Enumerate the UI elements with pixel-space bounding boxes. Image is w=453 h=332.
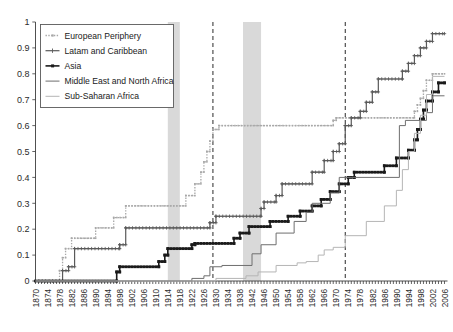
series-marker-asia [266, 225, 269, 228]
series-marker-asia [347, 182, 350, 185]
series-marker-european-periphery [332, 125, 334, 127]
series-marker-asia [404, 157, 407, 160]
series-marker-european-periphery [387, 117, 389, 119]
series-marker-latam-and-caribbean [301, 182, 304, 185]
series-marker-asia [341, 182, 344, 185]
series-marker-european-periphery [71, 237, 73, 239]
series-marker-asia [320, 204, 323, 207]
series-marker-european-periphery [141, 205, 143, 207]
series-marker-latam-and-caribbean [202, 226, 205, 229]
series-marker-asia [148, 265, 151, 268]
series-marker-asia [130, 265, 133, 268]
series-marker-european-periphery [194, 183, 196, 185]
series-marker-asia [199, 242, 202, 245]
series-marker-latam-and-caribbean [359, 116, 362, 119]
series-marker-asia [166, 247, 169, 250]
x-tick-label: 1922 [188, 289, 197, 308]
series-marker-latam-and-caribbean [155, 226, 158, 229]
series-line-asia [36, 83, 445, 281]
x-tick-label: 1950 [272, 289, 281, 308]
series-marker-european-periphery [206, 161, 208, 163]
series-marker-european-periphery [218, 125, 220, 127]
series-marker-european-periphery [332, 120, 334, 122]
series-marker-european-periphery [285, 125, 287, 127]
series-marker-asia [157, 260, 160, 263]
series-marker-latam-and-caribbean [189, 226, 192, 229]
series-marker-asia [374, 171, 377, 174]
series-marker-asia [190, 247, 193, 250]
series-marker-european-periphery [435, 73, 437, 75]
x-tick-label: 1954 [284, 289, 293, 308]
x-tick-label: 1910 [152, 289, 161, 308]
series-marker-asia [443, 81, 446, 84]
series-marker-latam-and-caribbean [161, 226, 164, 229]
series-marker-asia [440, 81, 443, 84]
series-marker-european-periphery [406, 117, 408, 119]
series-marker-asia [344, 182, 347, 185]
series-marker-european-periphery [188, 195, 190, 197]
figure-container: 00.10.20.30.40.50.60.70.80.91 1870187418… [0, 0, 453, 332]
series-marker-european-periphery [244, 125, 246, 127]
series-marker-asia [175, 247, 178, 250]
series-marker-european-periphery [426, 90, 428, 92]
chart-legend: European PeripheryLatam and CaribbeanAsi… [41, 25, 174, 108]
series-marker-asia [269, 220, 272, 223]
series-marker-european-periphery [282, 125, 284, 127]
series-marker-european-periphery [420, 104, 422, 106]
figure-caption-clipped [0, 321, 453, 332]
series-marker-european-periphery [234, 125, 236, 127]
series-marker-european-periphery [414, 111, 416, 113]
chart-canvas: 00.10.20.30.40.50.60.70.80.91 1870187418… [0, 0, 453, 332]
series-marker-european-periphery [438, 73, 440, 75]
series-marker-european-periphery [409, 117, 411, 119]
series-marker-asia [160, 260, 163, 263]
series-marker-asia [211, 242, 214, 245]
series-marker-european-periphery [403, 117, 405, 119]
series-marker-asia [127, 265, 130, 268]
series-marker-latam-and-caribbean [127, 226, 130, 229]
series-marker-latam-and-caribbean [134, 226, 137, 229]
x-tick-label: 1930 [212, 289, 221, 308]
series-marker-european-periphery [412, 117, 414, 119]
series-marker-latam-and-caribbean [431, 32, 434, 35]
series-marker-european-periphery [228, 125, 230, 127]
series-marker-asia [317, 204, 320, 207]
series-marker-european-periphery [257, 125, 259, 127]
x-tick-label: 1894 [104, 289, 113, 308]
series-marker-latam-and-caribbean [397, 77, 400, 80]
series-marker-european-periphery [423, 98, 425, 100]
series-marker-asia [395, 157, 398, 160]
series-marker-latam-and-caribbean [419, 46, 422, 49]
y-tick-label: 1 [24, 17, 29, 27]
series-marker-asia [368, 171, 371, 174]
series-marker-latam-and-caribbean [86, 247, 89, 250]
x-tick-label: 1942 [248, 289, 257, 308]
series-marker-latam-and-caribbean [284, 182, 287, 185]
x-tick-label: 1906 [140, 289, 149, 308]
series-marker-european-periphery [93, 237, 95, 239]
series-marker-european-periphery [289, 125, 291, 127]
series-marker-latam-and-caribbean [110, 247, 113, 250]
series-marker-european-periphery [374, 117, 376, 119]
series-marker-latam-and-caribbean [151, 226, 154, 229]
x-tick-label: 1966 [320, 289, 329, 308]
series-marker-european-periphery [113, 227, 115, 229]
series-marker-european-periphery [342, 117, 344, 119]
series-marker-european-periphery [98, 227, 100, 229]
legend-marker-asia [51, 64, 54, 67]
series-marker-asia [416, 138, 419, 141]
series-marker-european-periphery [231, 125, 233, 127]
series-marker-european-periphery [305, 125, 307, 127]
x-tick-label: 1958 [296, 289, 305, 308]
legend-item-middle-east-and-north-africa[interactable]: Middle East and North Africa [46, 76, 174, 86]
series-marker-european-periphery [390, 117, 392, 119]
series-marker-european-periphery [279, 125, 281, 127]
series-marker-european-periphery [197, 183, 199, 185]
x-tick-label: 2006 [441, 289, 450, 308]
series-marker-asia [181, 247, 184, 250]
x-tick-label: 1974 [344, 289, 353, 308]
series-marker-european-periphery [212, 140, 214, 142]
x-tick-label: 1938 [236, 289, 245, 308]
series-marker-european-periphery [119, 217, 121, 219]
series-marker-european-periphery [225, 125, 227, 127]
